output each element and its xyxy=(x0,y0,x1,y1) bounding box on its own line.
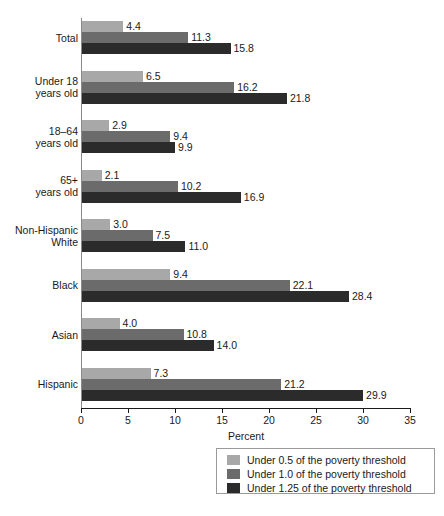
category-label: 65+ years old xyxy=(0,174,78,198)
x-axis-tick xyxy=(363,409,364,413)
bar-0 xyxy=(82,318,120,329)
bar-0 xyxy=(82,21,123,32)
bar-value-label: 2.9 xyxy=(112,120,127,131)
bar-0 xyxy=(82,170,102,181)
legend-swatch-icon xyxy=(227,455,240,465)
x-axis-tick-label: 0 xyxy=(66,414,96,426)
x-axis-tick xyxy=(222,409,223,413)
bar-value-label: 7.5 xyxy=(156,230,171,241)
bar-value-label: 21.2 xyxy=(284,379,304,390)
bar-2 xyxy=(82,43,231,54)
bar-value-label: 4.4 xyxy=(126,21,141,32)
bar-value-label: 11.0 xyxy=(188,241,208,252)
legend-item-label: Under 1.25 of the poverty threshold xyxy=(247,482,412,494)
bar-2 xyxy=(82,142,175,153)
plot-area: 4.411.315.86.516.221.82.99.49.92.110.216… xyxy=(0,0,444,410)
x-axis-tick-label: 30 xyxy=(348,414,378,426)
x-axis-tick xyxy=(175,409,176,413)
x-axis-title: Percent xyxy=(81,430,411,442)
category-label: Hispanic xyxy=(0,378,78,390)
bar-value-label: 4.0 xyxy=(123,318,138,329)
legend-swatch-icon xyxy=(227,483,240,493)
bar-value-label: 10.2 xyxy=(181,181,201,192)
category-label: Non-Hispanic White xyxy=(0,224,78,248)
x-axis-tick xyxy=(81,409,82,413)
bar-1 xyxy=(82,32,188,43)
legend-item-label: Under 0.5 of the poverty threshold xyxy=(247,454,406,466)
bar-value-label: 7.3 xyxy=(154,368,169,379)
x-axis-line xyxy=(81,408,411,409)
bar-2 xyxy=(82,241,185,252)
bar-value-label: 3.0 xyxy=(113,219,128,230)
x-axis-tick-label: 15 xyxy=(207,414,237,426)
x-axis-tick xyxy=(316,409,317,413)
bar-value-label: 2.1 xyxy=(105,170,120,181)
category-label: Under 18 years old xyxy=(0,75,78,99)
bar-value-label: 21.8 xyxy=(290,93,310,104)
x-axis-tick-label: 35 xyxy=(395,414,425,426)
bar-2 xyxy=(82,93,287,104)
bar-2 xyxy=(82,192,241,203)
x-axis-tick xyxy=(269,409,270,413)
bar-1 xyxy=(82,379,281,390)
bar-value-label: 10.8 xyxy=(187,329,207,340)
bar-0 xyxy=(82,120,109,131)
x-axis-tick-label: 10 xyxy=(160,414,190,426)
legend-item-label: Under 1.0 of the poverty threshold xyxy=(247,468,406,480)
bar-value-label: 9.4 xyxy=(173,269,188,280)
bar-1 xyxy=(82,131,170,142)
bar-value-label: 15.8 xyxy=(234,43,254,54)
bar-value-label: 6.5 xyxy=(146,71,161,82)
bar-1 xyxy=(82,82,234,93)
legend-item: Under 1.25 of the poverty threshold xyxy=(227,482,434,494)
bar-value-label: 16.9 xyxy=(244,192,264,203)
bar-0 xyxy=(82,368,151,379)
bar-2 xyxy=(82,390,363,401)
bar-value-label: 22.1 xyxy=(293,280,313,291)
category-label: 18–64 years old xyxy=(0,125,78,149)
legend-item: Under 0.5 of the poverty threshold xyxy=(227,454,434,466)
bar-value-label: 9.9 xyxy=(178,142,193,153)
x-axis-tick xyxy=(410,409,411,413)
bar-2 xyxy=(82,340,214,351)
bar-1 xyxy=(82,181,178,192)
bar-2 xyxy=(82,291,349,302)
x-axis-tick-label: 20 xyxy=(254,414,284,426)
x-axis-tick-label: 5 xyxy=(113,414,143,426)
bar-value-label: 29.9 xyxy=(366,390,386,401)
x-axis-tick xyxy=(128,409,129,413)
poverty-threshold-bar-chart: 4.411.315.86.516.221.82.99.49.92.110.216… xyxy=(0,0,444,516)
category-label: Black xyxy=(0,279,78,291)
legend-item: Under 1.0 of the poverty threshold xyxy=(227,468,434,480)
bar-value-label: 16.2 xyxy=(237,82,257,93)
bar-0 xyxy=(82,269,170,280)
bar-value-label: 14.0 xyxy=(217,340,237,351)
bar-1 xyxy=(82,329,184,340)
chart-legend: Under 0.5 of the poverty threshold Under… xyxy=(216,448,435,494)
category-label: Asian xyxy=(0,329,78,341)
bar-value-label: 28.4 xyxy=(352,291,372,302)
bar-1 xyxy=(82,230,153,241)
legend-swatch-icon xyxy=(227,469,240,479)
bar-value-label: 11.3 xyxy=(191,32,211,43)
x-axis-tick-label: 25 xyxy=(301,414,331,426)
bar-0 xyxy=(82,71,143,82)
bar-0 xyxy=(82,219,110,230)
category-label: Total xyxy=(0,32,78,44)
bar-1 xyxy=(82,280,290,291)
